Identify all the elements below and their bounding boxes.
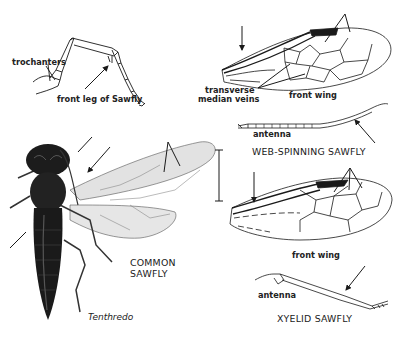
transverse-vein-pointer-1 [258, 64, 290, 88]
label-sawfly: SAWFLY [130, 269, 168, 279]
label-front-wing-top: front wing [289, 91, 337, 100]
label-antenna-bottom: antenna [258, 291, 296, 300]
label-tenthredo: Tenthredo [88, 313, 133, 322]
label-common: COMMON [130, 258, 176, 268]
web-spinning-stigma-pointer-2 [345, 14, 350, 32]
label-xyelid-sawfly: XYELID SAWFLY [277, 314, 352, 324]
web-spinning-front-wing [222, 28, 391, 90]
xyelid-antenna-arrow [346, 266, 365, 290]
common-sawfly-antenna-pointer [78, 137, 92, 152]
label-front-wing-bottom: front wing [292, 251, 340, 260]
xyelid-stigma-pointer-2 [349, 168, 350, 190]
common-sawfly-body [10, 142, 215, 320]
label-antenna-top: antenna [253, 130, 291, 139]
web-spinning-antenna-arrow [355, 120, 375, 143]
label-front-leg: front leg of Sawfly [57, 95, 142, 104]
common-sawfly-leg-pointer [10, 232, 26, 248]
web-spinning-antenna-drawing [238, 104, 388, 128]
front-leg-arrow [85, 66, 108, 89]
scale-bar [215, 150, 223, 201]
transverse-vein-pointer-2 [258, 74, 305, 88]
common-sawfly-antenna-arrow [88, 147, 110, 172]
label-trochanters: trochanters [12, 58, 66, 67]
sawfly-illustration [0, 0, 408, 364]
label-median-veins: median veins [198, 95, 259, 104]
label-web-spinning-sawfly: WEB-SPINNING SAWFLY [252, 147, 366, 157]
